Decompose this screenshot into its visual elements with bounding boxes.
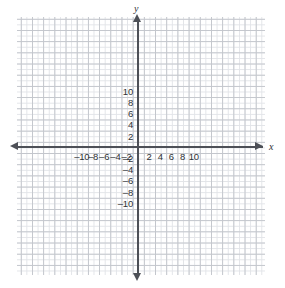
y-axis-top-arrowhead xyxy=(133,14,141,22)
y-tick-label: 10 xyxy=(123,85,133,96)
x-tick-label: 10 xyxy=(189,151,199,162)
y-tick-label: –10 xyxy=(118,197,133,208)
y-tick-label: –8 xyxy=(123,186,133,197)
x-tick-label: 8 xyxy=(180,151,185,162)
x-tick-label: 6 xyxy=(169,151,174,162)
x-axis-label: x xyxy=(269,141,273,152)
x-axis-left-arrowhead xyxy=(10,142,18,150)
x-tick-label: –8 xyxy=(88,151,98,162)
x-tick-label: –6 xyxy=(99,151,109,162)
x-axis-right-arrowhead xyxy=(255,142,263,150)
y-tick-label: 4 xyxy=(128,119,133,130)
y-tick-label: 6 xyxy=(128,108,133,119)
y-axis-bottom-arrowhead xyxy=(133,273,141,281)
y-axis-label: y xyxy=(134,3,138,14)
y-tick-label: –6 xyxy=(123,175,133,186)
y-tick-label: 2 xyxy=(128,130,133,141)
y-tick-label: 8 xyxy=(128,97,133,108)
coordinate-plane-figure: –10–8–6–4–2246810 108642–2–4–6–8–10 x y xyxy=(0,0,285,288)
y-tick-label: –4 xyxy=(123,164,133,175)
x-tick-label: 2 xyxy=(146,151,151,162)
y-axis-line xyxy=(137,21,139,277)
x-tick-label: –4 xyxy=(110,151,120,162)
y-tick-label: –2 xyxy=(123,153,133,164)
x-tick-label: 4 xyxy=(158,151,163,162)
